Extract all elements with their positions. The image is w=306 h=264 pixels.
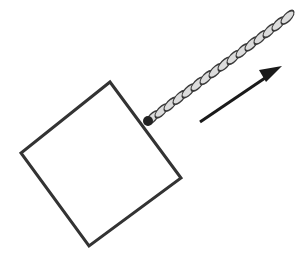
knot-blob xyxy=(143,116,153,126)
diagram-canvas: Block pulled by a rope Line drawing of a… xyxy=(0,0,306,264)
knot xyxy=(143,116,153,126)
block-rope-diagram: Block pulled by a rope Line drawing of a… xyxy=(0,0,306,264)
